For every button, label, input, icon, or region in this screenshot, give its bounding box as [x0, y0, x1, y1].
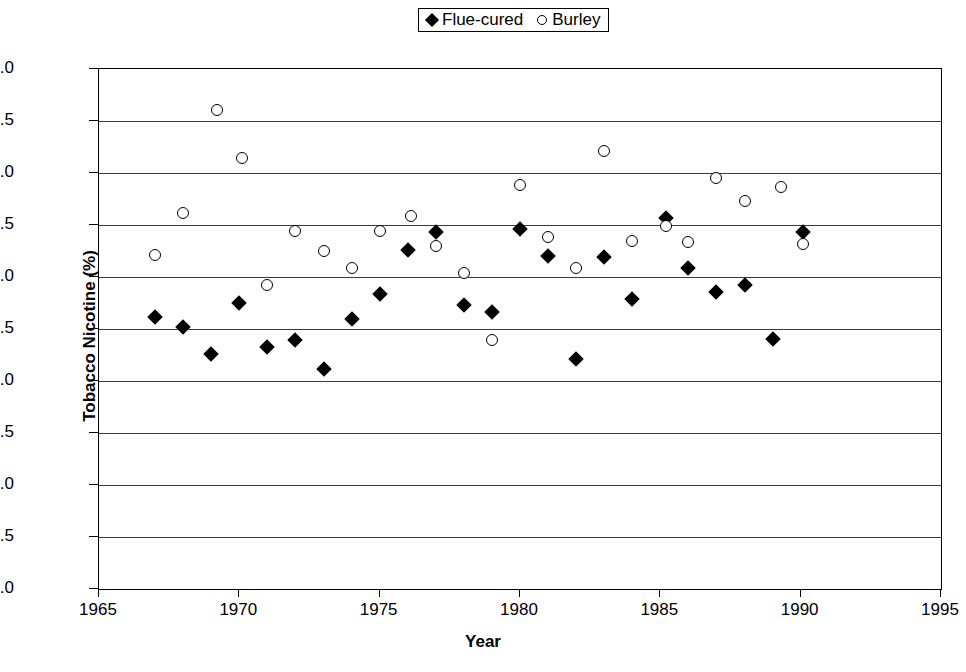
data-point-burley	[346, 262, 358, 274]
x-tick-label: 1995	[921, 600, 959, 620]
gridline	[99, 173, 941, 174]
data-point-flue-cured	[681, 260, 697, 276]
data-point-flue-cured	[456, 297, 472, 313]
data-point-burley	[458, 267, 470, 279]
y-tick-label: 5.0	[0, 58, 14, 78]
gridline	[99, 121, 941, 122]
data-point-burley	[775, 181, 787, 193]
plot-area	[98, 68, 942, 590]
x-axis-title: Year	[0, 632, 966, 652]
y-tick-label: 0.0	[0, 578, 14, 598]
x-tick-label: 1965	[79, 600, 117, 620]
data-point-flue-cured	[344, 311, 360, 327]
data-point-burley	[261, 279, 273, 291]
chart-legend: Flue-cured Burley	[418, 8, 609, 32]
y-tick-label: 2.5	[0, 318, 14, 338]
data-point-burley	[177, 207, 189, 219]
data-point-burley	[289, 225, 301, 237]
data-point-burley	[514, 179, 526, 191]
gridline	[99, 433, 941, 434]
data-point-burley	[149, 249, 161, 261]
y-tick-mark	[89, 224, 98, 225]
data-point-burley	[570, 262, 582, 274]
y-tick-mark	[89, 588, 98, 589]
data-point-flue-cured	[203, 346, 219, 362]
x-tick-label: 1990	[781, 600, 819, 620]
data-point-burley	[542, 231, 554, 243]
data-point-flue-cured	[596, 249, 612, 265]
gridline	[99, 485, 941, 486]
data-point-burley	[660, 220, 672, 232]
data-point-flue-cured	[316, 361, 332, 377]
data-point-flue-cured	[372, 286, 388, 302]
data-point-flue-cured	[765, 332, 781, 348]
legend-label-burley: Burley	[552, 11, 600, 28]
data-point-burley	[211, 104, 223, 116]
y-tick-mark	[89, 120, 98, 121]
data-point-burley	[710, 172, 722, 184]
scatter-chart-figure: Flue-cured Burley 0.00.51.01.52.02.53.03…	[0, 0, 966, 672]
y-tick-label: 4.5	[0, 110, 14, 130]
x-tick-label: 1985	[640, 600, 678, 620]
x-tick-label: 1980	[500, 600, 538, 620]
gridline	[99, 381, 941, 382]
data-point-flue-cured	[400, 242, 416, 258]
data-point-burley	[318, 245, 330, 257]
gridline	[99, 537, 941, 538]
data-point-flue-cured	[288, 333, 304, 349]
data-point-burley	[626, 235, 638, 247]
x-tick-label: 1975	[360, 600, 398, 620]
y-tick-mark	[89, 68, 98, 69]
data-point-flue-cured	[260, 339, 276, 355]
y-tick-label: 1.0	[0, 474, 14, 494]
legend-item-burley: Burley	[537, 11, 600, 28]
y-tick-mark	[89, 432, 98, 433]
data-point-burley	[374, 225, 386, 237]
y-tick-label: 0.5	[0, 526, 14, 546]
data-point-burley	[430, 240, 442, 252]
data-point-flue-cured	[147, 309, 163, 325]
data-point-flue-cured	[737, 278, 753, 294]
data-point-burley	[739, 195, 751, 207]
data-point-flue-cured	[428, 224, 444, 240]
data-point-burley	[682, 236, 694, 248]
legend-label-flue-cured: Flue-cured	[442, 11, 523, 28]
y-tick-label: 1.5	[0, 422, 14, 442]
y-tick-label: 3.5	[0, 214, 14, 234]
y-tick-mark	[89, 484, 98, 485]
open-circle-marker-icon	[537, 15, 547, 25]
data-point-burley	[236, 152, 248, 164]
gridline	[99, 329, 941, 330]
y-tick-label: 3.0	[0, 266, 14, 286]
y-tick-mark	[89, 172, 98, 173]
data-point-flue-cured	[568, 351, 584, 367]
y-axis-title: Tobacco Nicotine (%)	[80, 250, 100, 422]
data-point-flue-cured	[540, 248, 556, 264]
data-point-flue-cured	[175, 319, 191, 335]
gridline	[99, 277, 941, 278]
data-point-flue-cured	[232, 295, 248, 311]
x-tick-label: 1970	[219, 600, 257, 620]
data-point-flue-cured	[624, 291, 640, 307]
data-point-burley	[486, 334, 498, 346]
legend-item-flue-cured: Flue-cured	[427, 11, 523, 28]
y-tick-label: 2.0	[0, 370, 14, 390]
data-point-burley	[598, 145, 610, 157]
data-point-burley	[797, 238, 809, 250]
y-tick-label: 4.0	[0, 162, 14, 182]
filled-diamond-marker-icon	[425, 12, 439, 26]
y-tick-mark	[89, 536, 98, 537]
data-point-flue-cured	[484, 305, 500, 321]
data-point-flue-cured	[512, 221, 528, 237]
data-point-flue-cured	[709, 284, 725, 300]
data-point-burley	[405, 210, 417, 222]
